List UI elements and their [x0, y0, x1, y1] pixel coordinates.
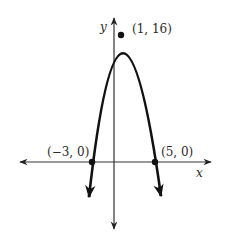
- parabola-diagram: y (1, 16) (−3, 0) (5, 0) x: [0, 0, 226, 238]
- x-intercept-left-point: [89, 159, 95, 165]
- x-axis-label: x: [196, 167, 203, 179]
- right-intercept-label: (5, 0): [161, 146, 193, 158]
- y-axis-label: y: [100, 21, 107, 33]
- parabola-curve: [89, 53, 161, 197]
- vertex-label: (1, 16): [132, 23, 172, 35]
- left-intercept-label: (−3, 0): [47, 146, 89, 158]
- vertex-point: [118, 32, 124, 38]
- x-intercept-right-point: [152, 159, 158, 165]
- graph-canvas: [0, 0, 226, 238]
